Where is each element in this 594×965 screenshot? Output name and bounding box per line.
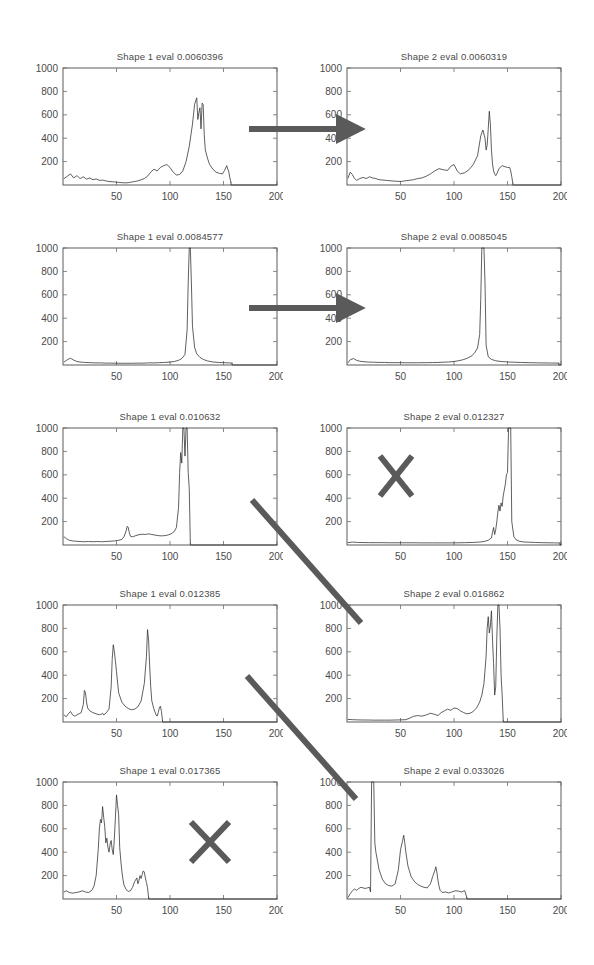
y-tick-label: 800 (325, 800, 342, 811)
y-tick-label: 600 (325, 289, 342, 300)
y-tick-label: 1000 (320, 63, 343, 74)
x-tick-label: 50 (395, 551, 407, 562)
x-tick-label: 200 (269, 371, 283, 382)
x-tick-label: 200 (269, 728, 283, 739)
x-tick-label: 50 (111, 191, 123, 202)
plot-frame (63, 428, 277, 545)
y-tick-label: 1000 (36, 777, 59, 788)
x-tick-label: 50 (111, 728, 123, 739)
y-tick-label: 800 (41, 266, 58, 277)
y-tick-label: 200 (41, 156, 58, 167)
plot-frame (347, 782, 561, 899)
y-tick-label: 200 (325, 870, 342, 881)
plot-axes-r5c2: 200400600800100050100150200 (311, 765, 567, 921)
y-tick-label: 400 (325, 670, 342, 681)
plot-axes-r2c1: 200400600800100050100150200 (27, 231, 283, 387)
x-tick-label: 100 (162, 728, 179, 739)
x-tick-label: 150 (215, 551, 232, 562)
plot-panel-r5c1: Shape 1 eval 0.0173652004006008001000501… (27, 765, 283, 921)
x-tick-label: 150 (215, 905, 232, 916)
x-tick-label: 200 (553, 551, 567, 562)
data-series-r4c1 (64, 630, 162, 721)
x-tick-label: 100 (446, 905, 463, 916)
y-tick-label: 600 (325, 823, 342, 834)
x-tick-label: 50 (395, 728, 407, 739)
y-tick-label: 200 (325, 693, 342, 704)
data-baseline-r5c2 (467, 898, 561, 899)
y-tick-label: 800 (41, 86, 58, 97)
y-tick-label: 800 (325, 266, 342, 277)
x-tick-label: 100 (446, 371, 463, 382)
data-baseline-r3c1 (190, 544, 277, 545)
x-tick-label: 200 (553, 191, 567, 202)
plot-axes-r4c2: 200400600800100050100150200 (311, 588, 567, 744)
x-tick-label: 100 (162, 905, 179, 916)
plot-panel-r2c1: Shape 1 eval 0.0084577200400600800100050… (27, 231, 283, 387)
data-series-r3c2 (348, 428, 560, 543)
y-tick-label: 800 (325, 446, 342, 457)
y-tick-label: 1000 (320, 423, 343, 434)
plot-axes-r3c2: 200400600800100050100150200 (311, 411, 567, 567)
data-series-r1c1 (64, 98, 231, 183)
plot-panel-r1c1: Shape 1 eval 0.0060396200400600800100050… (27, 51, 283, 207)
data-series-r2c1 (64, 248, 232, 363)
plot-axes-r2c2: 200400600800100050100150200 (311, 231, 567, 387)
x-tick-label: 150 (499, 371, 516, 382)
x-tick-label: 150 (499, 905, 516, 916)
y-tick-label: 1000 (320, 600, 343, 611)
y-tick-label: 600 (325, 109, 342, 120)
plot-axes-r1c2: 200400600800100050100150200 (311, 51, 567, 207)
plot-panel-r5c2: Shape 2 eval 0.0330262004006008001000501… (311, 765, 567, 921)
x-tick-label: 50 (395, 905, 407, 916)
x-tick-label: 150 (215, 728, 232, 739)
y-tick-label: 400 (325, 313, 342, 324)
x-tick-label: 200 (269, 905, 283, 916)
plot-axes-r5c1: 200400600800100050100150200 (27, 765, 283, 921)
plot-panel-r4c1: Shape 1 eval 0.0123852004006008001000501… (27, 588, 283, 744)
y-tick-label: 1000 (36, 243, 59, 254)
y-tick-label: 600 (41, 109, 58, 120)
data-baseline-r4c1 (163, 721, 277, 722)
plot-axes-r4c1: 200400600800100050100150200 (27, 588, 283, 744)
x-tick-label: 100 (446, 728, 463, 739)
y-tick-label: 800 (325, 623, 342, 634)
y-tick-label: 600 (325, 469, 342, 480)
x-tick-label: 100 (162, 191, 179, 202)
y-tick-label: 1000 (320, 243, 343, 254)
x-tick-label: 50 (111, 905, 123, 916)
x-tick-label: 200 (269, 551, 283, 562)
y-tick-label: 1000 (320, 777, 343, 788)
data-baseline-r1c1 (231, 183, 277, 185)
y-tick-label: 600 (41, 646, 58, 657)
y-tick-label: 400 (325, 493, 342, 504)
data-series-r5c2 (348, 782, 467, 898)
data-baseline-r1c2 (513, 183, 561, 185)
y-tick-label: 400 (325, 133, 342, 144)
y-tick-label: 800 (41, 446, 58, 457)
y-tick-label: 1000 (36, 600, 59, 611)
plot-panel-r4c2: Shape 2 eval 0.0168622004006008001000501… (311, 588, 567, 744)
x-tick-label: 150 (499, 191, 516, 202)
y-tick-label: 400 (41, 313, 58, 324)
x-tick-label: 100 (162, 551, 179, 562)
plot-panel-r1c2: Shape 2 eval 0.0060319200400600800100050… (311, 51, 567, 207)
plot-frame (63, 605, 277, 722)
data-series-r3c1 (64, 428, 190, 544)
data-series-r2c2 (348, 248, 559, 363)
y-tick-label: 800 (41, 800, 58, 811)
plot-axes-r1c1: 200400600800100050100150200 (27, 51, 283, 207)
x-tick-label: 200 (553, 905, 567, 916)
x-tick-label: 150 (215, 191, 232, 202)
x-tick-label: 50 (111, 551, 123, 562)
plot-frame (347, 428, 561, 545)
plot-frame (347, 248, 561, 365)
y-tick-label: 1000 (36, 423, 59, 434)
y-tick-label: 200 (41, 693, 58, 704)
y-tick-label: 600 (41, 823, 58, 834)
plot-frame (347, 605, 561, 722)
x-tick-label: 150 (499, 728, 516, 739)
y-tick-label: 400 (325, 847, 342, 858)
plot-axes-r3c1: 200400600800100050100150200 (27, 411, 283, 567)
plot-panel-r2c2: Shape 2 eval 0.0085045200400600800100050… (311, 231, 567, 387)
y-tick-label: 400 (41, 670, 58, 681)
